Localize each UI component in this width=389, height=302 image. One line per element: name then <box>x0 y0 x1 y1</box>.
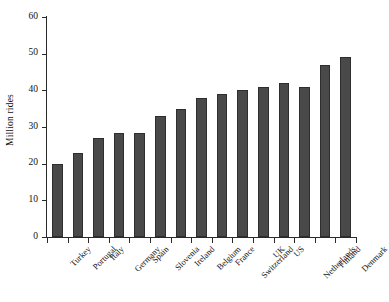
y-axis-tick-label: 60 <box>29 11 39 22</box>
y-axis-tick: 20 <box>0 164 47 165</box>
x-axis-tick-mark <box>232 238 233 243</box>
y-axis-tick: 60 <box>0 17 47 18</box>
x-axis-tick-mark <box>47 238 48 243</box>
x-axis-tick-mark <box>274 238 275 243</box>
y-axis-tick-label: 40 <box>29 84 39 95</box>
x-axis-tick-label: US <box>291 244 306 259</box>
bar <box>279 83 290 237</box>
y-axis-tick-label: 50 <box>29 47 39 58</box>
y-axis-tick-label: 20 <box>29 157 39 168</box>
x-axis-tick-mark <box>212 238 213 243</box>
bar <box>52 164 63 237</box>
y-axis-tick: 50 <box>0 54 47 55</box>
x-axis-tick-mark <box>150 238 151 243</box>
bar <box>114 133 125 238</box>
bar <box>134 133 145 238</box>
x-axis-line <box>46 237 357 238</box>
x-axis-tick-mark <box>191 238 192 243</box>
y-axis-tick-label: 30 <box>29 121 39 132</box>
bar <box>320 65 331 237</box>
bar <box>73 153 84 237</box>
y-axis-tick: 0 <box>0 237 47 238</box>
y-axis-title-text: Million rides <box>5 94 15 146</box>
plot-area <box>47 17 356 237</box>
x-axis-tick-mark <box>335 238 336 243</box>
x-axis-tick-mark <box>68 238 69 243</box>
x-axis-tick-mark <box>294 238 295 243</box>
x-axis-tick-mark <box>171 238 172 243</box>
x-axis-tick-mark <box>356 238 357 243</box>
x-axis-tick-label: Turkey <box>68 244 92 268</box>
y-axis-tick: 10 <box>0 200 47 201</box>
y-axis-tick-label: 0 <box>33 231 38 242</box>
bar <box>340 57 351 237</box>
x-axis-tick-mark <box>315 238 316 243</box>
bar <box>237 90 248 237</box>
x-axis-tick-mark <box>129 238 130 243</box>
bar <box>196 98 207 237</box>
x-axis-tick-mark <box>253 238 254 243</box>
bar <box>217 94 228 237</box>
bar <box>155 116 166 237</box>
bar <box>176 109 187 237</box>
bar <box>299 87 310 237</box>
y-axis-tick-label: 10 <box>29 194 39 205</box>
y-axis-title: Million rides <box>0 0 20 240</box>
bar <box>93 138 104 237</box>
x-axis-tick-label: Denmark <box>359 244 389 274</box>
x-axis-tick-mark <box>88 238 89 243</box>
y-axis-tick: 30 <box>0 127 47 128</box>
y-axis-tick: 40 <box>0 90 47 91</box>
x-axis-tick-mark <box>109 238 110 243</box>
bar <box>258 87 269 237</box>
